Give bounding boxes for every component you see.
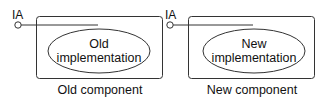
interface-lollipop-icon xyxy=(15,22,21,28)
implementation-label-line1: Old xyxy=(89,37,109,51)
component-caption: New component xyxy=(207,83,298,97)
interface-label: IA xyxy=(12,8,23,22)
component-caption: Old component xyxy=(58,83,143,97)
implementation-label-line2: implementation xyxy=(57,51,142,65)
new-component-panel: IA New implementation New component xyxy=(165,8,315,97)
component-replacement-diagram: IA Old implementation Old component IA N… xyxy=(0,0,329,101)
interface-lollipop-icon xyxy=(167,22,173,28)
implementation-label-line2: implementation xyxy=(212,51,297,65)
implementation-label-line1: New xyxy=(241,37,267,51)
old-component-panel: IA Old implementation Old component xyxy=(12,8,163,97)
interface-label: IA xyxy=(165,8,176,22)
